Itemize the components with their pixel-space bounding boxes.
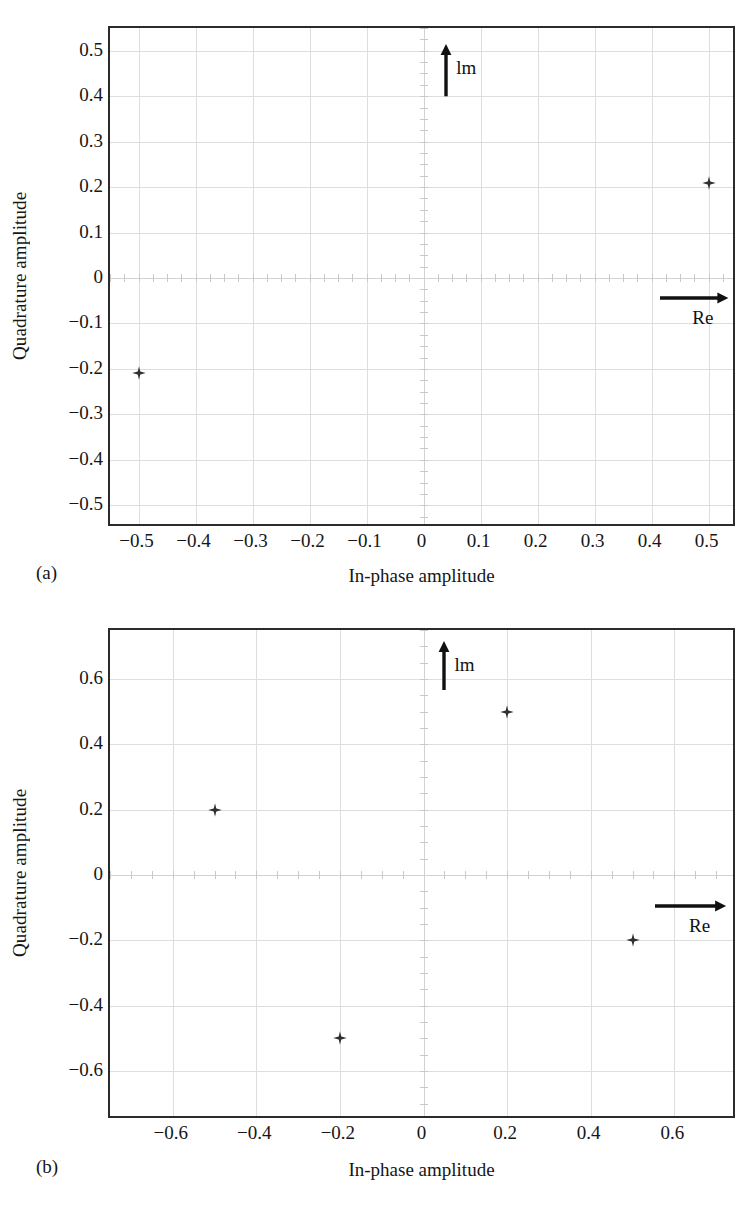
y-tick-label: −0.2	[69, 929, 103, 948]
minor-tick-y	[420, 39, 428, 40]
minor-tick-y	[420, 119, 428, 120]
minor-tick-y	[420, 108, 428, 109]
minor-tick-x	[253, 274, 254, 282]
minor-tick-y	[420, 460, 428, 461]
minor-tick-x	[256, 871, 257, 879]
minor-tick-y	[420, 392, 428, 393]
minor-tick-x	[139, 274, 140, 282]
minor-tick-y	[420, 646, 428, 647]
minor-tick-y	[420, 842, 428, 843]
grid-layer	[110, 28, 733, 524]
y-tick-label: 0.5	[79, 39, 103, 58]
minor-tick-y	[420, 28, 428, 29]
x-tick-label: 0.6	[660, 1123, 684, 1142]
minor-tick-y	[420, 810, 428, 811]
minor-tick-y	[420, 96, 428, 97]
minor-tick-y	[420, 471, 428, 472]
minor-tick-y	[420, 62, 428, 63]
y-tick-label: −0.5	[69, 494, 103, 513]
x-tick-label: −0.2	[290, 531, 324, 550]
minor-tick-x	[528, 871, 529, 879]
minor-tick-y	[420, 940, 428, 941]
minor-tick-y	[420, 859, 428, 860]
x-tick-label: −0.5	[119, 531, 153, 550]
minor-tick-y	[420, 233, 428, 234]
x-axis-title: In-phase amplitude	[108, 1159, 735, 1181]
minor-tick-x	[666, 274, 667, 282]
minor-tick-x	[196, 274, 197, 282]
minor-tick-y	[420, 267, 428, 268]
minor-tick-x	[409, 274, 410, 282]
minor-tick-y	[420, 761, 428, 762]
minor-tick-y	[420, 1022, 428, 1023]
minor-tick-x	[723, 274, 724, 282]
minor-tick-x	[481, 274, 482, 282]
plot-area-a: lmRe	[108, 26, 735, 526]
minor-tick-y	[420, 494, 428, 495]
minor-tick-y	[420, 728, 428, 729]
minor-tick-y	[420, 1087, 428, 1088]
minor-tick-x	[167, 274, 168, 282]
minor-tick-x	[591, 871, 592, 879]
minor-tick-x	[403, 871, 404, 879]
minor-tick-y	[420, 255, 428, 256]
minor-tick-x	[509, 274, 510, 282]
minor-tick-x	[277, 871, 278, 879]
minor-tick-x	[295, 274, 296, 282]
minor-tick-x	[695, 871, 696, 879]
minor-tick-x	[595, 274, 596, 282]
minor-tick-y	[420, 369, 428, 370]
data-point	[500, 704, 515, 719]
minor-tick-y	[420, 312, 428, 313]
minor-tick-y	[420, 1055, 428, 1056]
minor-tick-x	[652, 274, 653, 282]
minor-tick-y	[420, 153, 428, 154]
minor-tick-y	[420, 426, 428, 427]
grid-layer	[110, 630, 733, 1116]
x-tick-labels: −0.5−0.4−0.3−0.2−0.100.10.20.30.40.5	[108, 531, 735, 557]
minor-tick-x	[612, 871, 613, 879]
y-tick-label: −0.2	[69, 357, 103, 376]
minor-tick-y	[420, 187, 428, 188]
minor-tick-y	[420, 630, 428, 631]
minor-tick-y	[420, 1038, 428, 1039]
minor-tick-y	[420, 891, 428, 892]
y-tick-label: −0.4	[69, 994, 103, 1013]
minor-tick-y	[420, 777, 428, 778]
x-tick-label: −0.2	[321, 1123, 355, 1142]
minor-tick-y	[420, 712, 428, 713]
minor-tick-y	[420, 73, 428, 74]
x-tick-label: 0.2	[493, 1123, 517, 1142]
minor-tick-y	[420, 346, 428, 347]
minor-tick-y	[420, 793, 428, 794]
x-tick-labels: −0.6−0.4−0.200.20.40.6	[108, 1123, 735, 1149]
minor-tick-x	[452, 274, 453, 282]
y-tick-label: 0.4	[79, 733, 103, 752]
y-axis-title: Quadrature amplitude	[0, 26, 40, 526]
minor-tick-y	[420, 142, 428, 143]
x-axis-title: In-phase amplitude	[108, 565, 735, 587]
minor-tick-x	[194, 871, 195, 879]
minor-tick-y	[420, 448, 428, 449]
minor-tick-x	[495, 274, 496, 282]
y-tick-label: 0	[94, 864, 104, 883]
minor-tick-y	[420, 176, 428, 177]
minor-tick-y	[420, 483, 428, 484]
minor-tick-y	[420, 198, 428, 199]
minor-tick-y	[420, 323, 428, 324]
minor-tick-y	[420, 679, 428, 680]
minor-tick-y	[420, 164, 428, 165]
minor-tick-y	[420, 358, 428, 359]
minor-tick-x	[267, 274, 268, 282]
minor-tick-x	[367, 274, 368, 282]
minor-tick-x	[215, 871, 216, 879]
minor-tick-x	[395, 274, 396, 282]
re-axis-arrow	[655, 899, 726, 913]
minor-tick-x	[523, 274, 524, 282]
subfigure-caption-a: (a)	[36, 562, 57, 584]
x-tick-label: 0	[417, 531, 427, 550]
minor-tick-y	[420, 1104, 428, 1105]
minor-tick-x	[566, 274, 567, 282]
axis-zero-vertical	[424, 28, 425, 524]
minor-tick-y	[420, 380, 428, 381]
